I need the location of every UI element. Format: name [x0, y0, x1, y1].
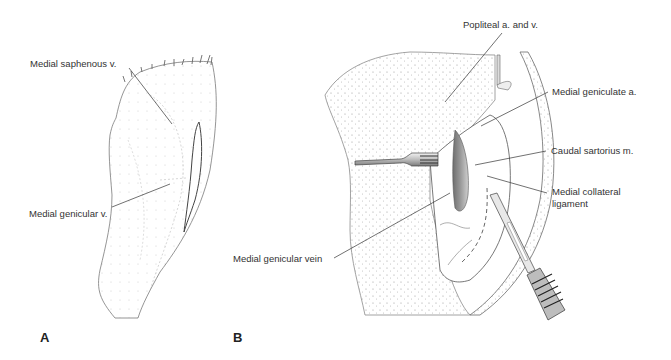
label-medial-genicular-v: Medial genicular v.	[29, 208, 108, 219]
panel-a-limb	[99, 55, 217, 318]
label-caudal-sartorius-m: Caudal sartorius m.	[551, 145, 633, 156]
anatomical-figure: Medial saphenous v. Medial genicular v. …	[0, 0, 671, 360]
label-popliteal-a-and-v: Popliteal a. and v.	[463, 19, 538, 30]
label-medial-genicular-vein: Medial genicular vein	[233, 253, 322, 264]
label-medial-geniculate-a: Medial geniculate a.	[552, 86, 637, 97]
label-ligament: ligament	[552, 198, 588, 209]
label-medial-saphenous-v: Medial saphenous v.	[30, 58, 116, 69]
panel-b-limb	[325, 52, 554, 315]
label-medial-collateral: Medial collateral	[552, 186, 621, 197]
scalpel-instrument	[490, 193, 565, 320]
illustration-artwork	[0, 0, 671, 360]
panel-letter-b: B	[233, 330, 242, 345]
panel-letter-a: A	[40, 330, 49, 345]
